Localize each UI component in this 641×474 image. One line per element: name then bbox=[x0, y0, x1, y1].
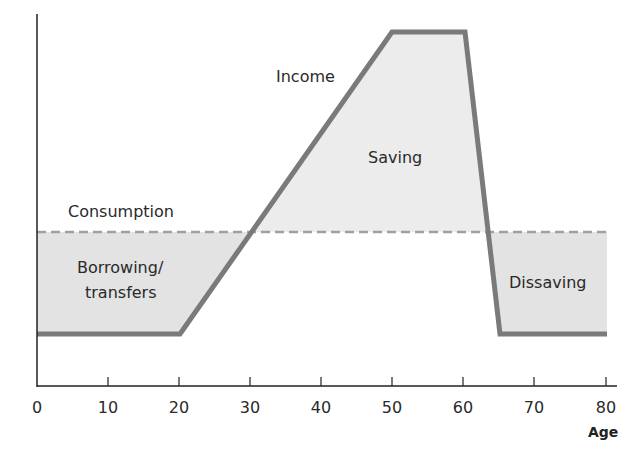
borrowing-label-line1: Borrowing/ bbox=[77, 258, 163, 277]
borrowing-label-line2: transfers bbox=[85, 283, 157, 302]
consumption-label: Consumption bbox=[68, 202, 174, 221]
x-tick-label: 60 bbox=[453, 398, 473, 417]
x-axis-label: Age bbox=[588, 424, 618, 440]
x-tick-label: 0 bbox=[32, 398, 42, 417]
saving-label: Saving bbox=[368, 148, 422, 167]
x-tick-label: 80 bbox=[596, 398, 616, 417]
x-tick-label: 70 bbox=[524, 398, 544, 417]
x-tick-label: 30 bbox=[240, 398, 260, 417]
x-tick-label: 40 bbox=[311, 398, 331, 417]
income-label: Income bbox=[276, 67, 335, 86]
dissaving-label: Dissaving bbox=[509, 273, 586, 292]
x-ticks bbox=[108, 377, 606, 386]
x-tick-label: 10 bbox=[98, 398, 118, 417]
x-tick-label: 50 bbox=[382, 398, 402, 417]
x-tick-label: 20 bbox=[169, 398, 189, 417]
